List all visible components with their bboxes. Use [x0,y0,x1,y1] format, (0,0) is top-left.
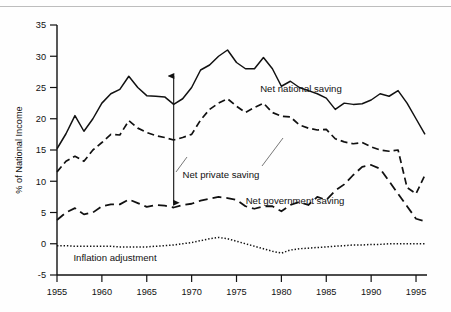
leader-private-right [262,138,283,166]
label-net-private-saving: Net private saving [183,169,260,180]
x-tick-label: 1970 [181,287,201,297]
y-tick-label: 30 [36,52,46,62]
x-tick-label: 1990 [361,287,381,297]
x-tick-label: 1965 [137,287,157,297]
label-inflation-adjustment: Inflation adjustment [73,252,157,263]
y-tick-label: 35 [36,20,46,30]
y-tick-label: 5 [41,208,46,218]
y-axis-ticks: 35302520151050-5 [36,20,57,280]
x-axis-ticks: 195519601965197019751980198519901995 [47,275,426,297]
series-paths [57,50,425,253]
label-net-government-saving: Net government saving [246,195,345,206]
series-line-net-national-saving [57,50,425,149]
y-tick-label: 0 [41,239,46,249]
leader-lines [176,138,283,172]
y-tick-label: 20 [36,114,46,124]
x-tick-label: 1985 [316,287,336,297]
x-tick-label: 1960 [92,287,112,297]
y-tick-label: 25 [36,83,46,93]
x-tick-label: 1975 [226,287,246,297]
y-tick-label: 10 [36,177,46,187]
x-tick-label: 1980 [271,287,291,297]
y-tick-label: 15 [36,145,46,155]
y-axis-label: % of National Income [14,106,24,193]
saving-rates-line-chart: % of National Income 35302520151050-5 19… [0,0,451,312]
x-tick-label: 1955 [47,287,67,297]
chart-figure: % of National Income 35302520151050-5 19… [0,0,451,312]
label-net-national-saving: Net national saving [260,83,342,94]
x-tick-label: 1995 [406,287,426,297]
series-line-inflation-adjustment [57,238,425,254]
y-tick-label: -5 [38,270,46,280]
